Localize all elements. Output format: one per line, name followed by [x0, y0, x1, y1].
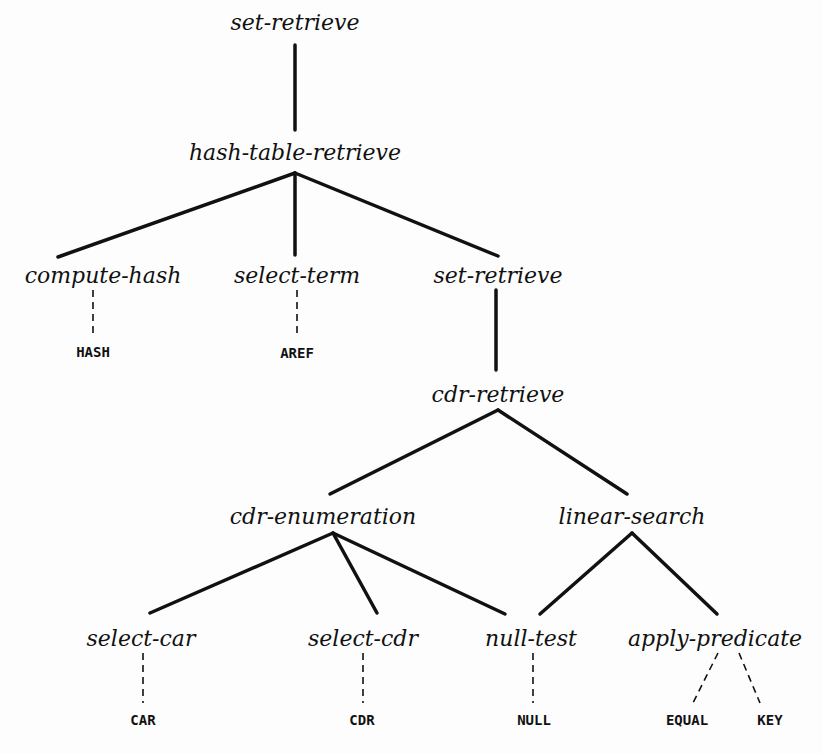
solid-edge-n8-n10	[498, 410, 627, 494]
solid-edge-n9-n13	[333, 533, 505, 614]
node-label-select-term: select-term	[234, 263, 360, 288]
node-label-cdr-retrieve: cdr-retrieve	[432, 382, 565, 407]
node-label-null-test: null-test	[485, 626, 577, 651]
node-label-hash-table-retrieve: hash-table-retrieve	[189, 140, 401, 165]
primitive-label-cdr: CDR	[349, 712, 374, 728]
dashed-edge-n14-n19	[739, 653, 760, 703]
primitive-label-key: KEY	[757, 712, 782, 728]
primitive-label-null: NULL	[517, 712, 551, 728]
node-label-compute-hash: compute-hash	[25, 263, 182, 288]
node-label-select-cdr: select-cdr	[308, 626, 418, 651]
primitive-label-aref: AREF	[280, 345, 314, 361]
primitive-label-equal: EQUAL	[666, 712, 708, 728]
node-label-cdr-enumeration: cdr-enumeration	[230, 504, 417, 529]
node-label-linear-search: linear-search	[559, 504, 706, 529]
solid-edge-n2-n5	[295, 173, 498, 256]
primitive-label-car: CAR	[130, 712, 155, 728]
dashed-edge-n14-n18	[693, 653, 718, 703]
node-label-set-retrieve: set-retrieve	[434, 263, 563, 288]
node-label-apply-predicate: apply-predicate	[628, 626, 802, 651]
node-label-set-retrieve: set-retrieve	[231, 10, 360, 35]
solid-edge-n10-n13	[540, 533, 632, 614]
tree-diagram: set-retrievehash-table-retrievecompute-h…	[0, 0, 822, 754]
primitive-label-hash: HASH	[76, 344, 110, 360]
solid-edge-n9-n11	[150, 533, 333, 613]
solid-edge-n8-n9	[330, 410, 498, 494]
solid-edge-n2-n3	[58, 173, 295, 257]
solid-edge-n10-n14	[632, 533, 717, 614]
node-label-select-car: select-car	[87, 626, 196, 651]
